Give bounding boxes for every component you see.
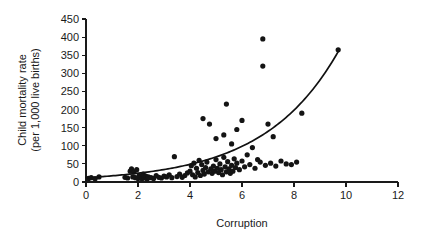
x-axis-title: Corruption [216, 217, 267, 229]
data-point [252, 166, 257, 171]
y-axis-title-line1: Child mortality rate [16, 54, 28, 146]
data-point [265, 121, 270, 126]
data-point [299, 111, 304, 116]
data-point [213, 136, 218, 141]
x-tick-label: 8 [291, 189, 297, 201]
data-point [271, 134, 276, 139]
x-axis-tick-labels: 024681012 [83, 189, 404, 201]
data-point [234, 161, 239, 166]
scatter-points [86, 36, 341, 181]
data-point [237, 167, 242, 172]
y-axis-tick-labels: 050100150200250300350400450 [61, 13, 79, 188]
y-tick-label: 0 [73, 176, 79, 188]
data-point [263, 163, 268, 168]
x-tick-label: 2 [135, 189, 141, 201]
y-tick-label: 100 [61, 140, 79, 152]
data-point [232, 156, 237, 161]
data-point [225, 159, 230, 164]
y-tick-label: 250 [61, 85, 79, 97]
data-point [239, 118, 244, 123]
x-axis: 024681012 [83, 182, 404, 201]
data-point [273, 163, 278, 168]
y-tick-label: 50 [67, 158, 79, 170]
y-axis-ticks [82, 19, 86, 182]
x-tick-label: 10 [340, 189, 352, 201]
scatter-plot-figure: 050100150200250300350400450 024681012 Co… [0, 0, 428, 236]
y-axis: 050100150200250300350400450 [61, 13, 86, 188]
x-tick-label: 6 [239, 189, 245, 201]
y-tick-label: 300 [61, 67, 79, 79]
data-point [224, 102, 229, 107]
x-axis-ticks [86, 182, 398, 187]
x-tick-label: 4 [187, 189, 193, 201]
data-point [221, 132, 226, 137]
data-point [207, 121, 212, 126]
y-tick-label: 150 [61, 122, 79, 134]
data-point [234, 127, 239, 132]
y-axis-title-line2: (per 1,000 live births) [29, 48, 41, 151]
data-point [284, 161, 289, 166]
data-point [203, 165, 208, 170]
chart-canvas: 050100150200250300350400450 024681012 Co… [0, 0, 428, 236]
data-point [258, 159, 263, 164]
data-point [193, 174, 198, 179]
data-point [278, 158, 283, 163]
data-point [245, 152, 250, 157]
data-point [260, 63, 265, 68]
data-point [169, 175, 174, 180]
y-tick-label: 450 [61, 13, 79, 25]
y-tick-label: 350 [61, 49, 79, 61]
x-tick-label: 0 [83, 189, 89, 201]
data-point [250, 145, 255, 150]
data-point [260, 36, 265, 41]
data-point [125, 175, 130, 180]
data-point [242, 164, 247, 169]
data-point [289, 162, 294, 167]
y-tick-label: 400 [61, 31, 79, 43]
data-point [239, 158, 244, 163]
y-tick-label: 200 [61, 104, 79, 116]
data-point [268, 161, 273, 166]
data-point [294, 159, 299, 164]
data-point [217, 161, 222, 166]
x-tick-label: 12 [392, 189, 404, 201]
data-point [200, 116, 205, 121]
data-point [134, 167, 139, 172]
data-point [247, 162, 252, 167]
data-point [172, 154, 177, 159]
data-point [229, 141, 234, 146]
